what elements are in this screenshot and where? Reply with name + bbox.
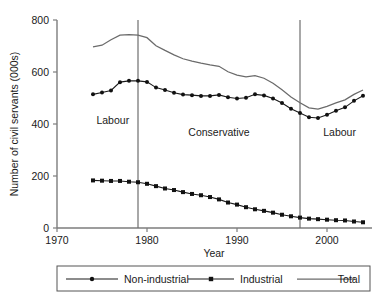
data-point-marker [271,211,275,215]
data-point-marker [118,80,122,84]
data-point-marker [298,111,302,115]
y-axis-title: Number of civil servants (000s) [8,52,20,197]
data-point-marker [217,93,221,97]
data-point-marker [307,217,311,221]
era-label: Labour [96,114,129,126]
data-point-marker [316,116,320,120]
era-label: Labour [323,126,356,138]
legend-label: Non-industrial [124,273,189,285]
data-point-marker [181,190,185,194]
data-point-marker [262,93,266,97]
legend-label: Industrial [240,273,283,285]
data-point-marker [154,184,158,188]
data-point-marker [163,88,167,92]
data-point-marker [244,96,248,100]
data-point-marker [145,182,149,186]
data-point-marker [361,94,365,98]
data-point-marker [190,192,194,196]
x-tick-label: 1980 [135,234,159,246]
data-point-marker [253,207,257,211]
y-tick-label: 200 [31,170,49,182]
data-point-marker [352,220,356,224]
data-point-marker [208,195,212,199]
x-tick-label: 1990 [225,234,249,246]
data-point-marker [199,193,203,197]
data-point-marker [235,97,239,101]
data-point-marker [136,79,140,83]
y-tick-label: 600 [31,66,49,78]
data-point-marker [118,179,122,183]
x-axis-title-text: Year [203,247,225,259]
x-axis-title: Year [203,247,225,259]
data-point-marker [316,217,320,221]
data-point-marker [127,79,131,83]
x-tick-label: 1970 [45,234,69,246]
data-point-marker [244,205,248,209]
data-point-marker [280,213,284,217]
data-point-marker [253,92,257,96]
data-point-marker [217,197,221,201]
data-point-marker [262,209,266,213]
data-point-marker [235,203,239,207]
data-point-marker [352,99,356,103]
data-point-marker [127,180,131,184]
data-point-marker [190,93,194,97]
legend-circle-marker-icon [90,277,94,281]
data-point-marker [100,91,104,95]
data-point-marker [181,93,185,97]
data-point-marker [334,109,338,113]
data-point-marker [91,92,95,96]
data-point-marker [91,178,95,182]
data-point-marker [136,180,140,184]
data-point-marker [334,218,338,222]
chart-figure: Number of civil servants (000s) 02004006… [0,0,378,301]
era-label: Conservative [188,126,249,138]
data-point-marker [208,94,212,98]
x-tick-label: 2000 [315,234,339,246]
data-point-marker [226,95,230,99]
y-axis-title-text: Number of civil servants (000s) [8,52,20,197]
data-point-marker [271,97,275,101]
data-point-marker [325,218,329,222]
data-point-marker [289,214,293,218]
data-point-marker [163,186,167,190]
data-point-marker [307,115,311,119]
data-point-marker [172,91,176,95]
data-point-marker [343,105,347,109]
y-tick-label: 0 [43,222,49,234]
data-point-marker [361,220,365,224]
legend-label: Total [338,273,360,285]
data-point-marker [109,88,113,92]
chart-legend: Non-industrialIndustrialTotal [57,266,370,291]
data-point-marker [226,201,230,205]
data-point-marker [325,113,329,117]
data-point-marker [154,86,158,90]
data-point-marker [100,179,104,183]
data-point-marker [289,107,293,111]
data-point-marker [199,94,203,98]
data-point-marker [298,216,302,220]
data-point-marker [172,188,176,192]
legend-square-marker-icon [209,277,213,281]
data-point-marker [280,101,284,105]
civil-servants-line-chart: Number of civil servants (000s) 02004006… [0,0,378,301]
y-tick-label: 400 [31,118,49,130]
data-point-marker [145,80,149,84]
data-point-marker [343,218,347,222]
data-point-marker [109,179,113,183]
y-tick-label: 800 [31,14,49,26]
